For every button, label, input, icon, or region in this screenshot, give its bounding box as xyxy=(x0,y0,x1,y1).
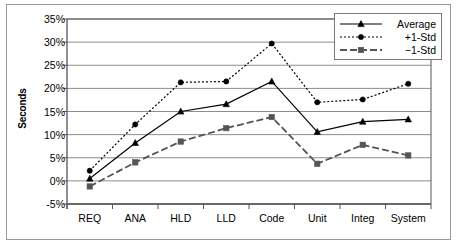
legend-label: Average xyxy=(383,18,436,30)
legend-item-1std: +1-Std xyxy=(339,30,436,43)
legend-swatch xyxy=(339,31,383,43)
data-point-square xyxy=(358,47,363,52)
legend-label: −1-Std xyxy=(383,44,436,56)
legend-swatch xyxy=(339,18,383,30)
x-tick-label-system: System xyxy=(378,213,438,224)
legend-item-1std: −1-Std xyxy=(339,43,436,56)
chart-frame: Seconds 35%30%25%20%15%10%5%0%-5% REQANA… xyxy=(6,4,451,240)
legend-label: +1-Std xyxy=(383,31,436,43)
legend-item-average: Average xyxy=(339,17,436,30)
legend-swatch xyxy=(339,44,383,56)
data-point-circle xyxy=(358,34,363,39)
chart-plot-area: Seconds 35%30%25%20%15%10%5%0%-5% REQANA… xyxy=(7,5,450,239)
chart-legend: Average+1-Std−1-Std xyxy=(334,13,442,60)
